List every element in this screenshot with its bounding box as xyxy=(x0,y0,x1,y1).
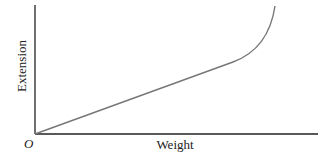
chart-canvas xyxy=(0,0,328,160)
origin-label: O xyxy=(24,136,33,152)
x-axis-label: Weight xyxy=(156,137,193,153)
extension-weight-chart: Extension Weight O xyxy=(0,0,328,160)
extension-curve xyxy=(35,6,275,134)
y-axis-label: Extension xyxy=(14,40,30,92)
